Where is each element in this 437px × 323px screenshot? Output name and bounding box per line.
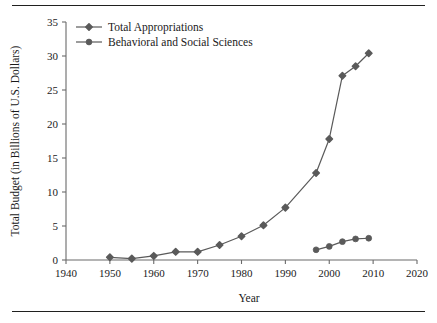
chart-series	[313, 235, 371, 252]
y-axis-tick-label: 30	[47, 50, 59, 62]
chart-series-group	[107, 50, 372, 262]
top-rule	[12, 5, 425, 6]
y-axis-tick-label: 20	[47, 118, 59, 130]
x-axis-title: Year	[238, 292, 259, 304]
line-chart: 05101520253035 1940195019601970198019902…	[0, 0, 437, 323]
data-point-marker	[216, 242, 222, 248]
data-point-marker	[194, 249, 200, 255]
x-axis-tick-label: 1950	[99, 267, 122, 279]
legend-item: Behavioral and Social Sciences	[76, 36, 253, 48]
data-point-marker	[340, 239, 346, 245]
chart-series	[107, 50, 372, 262]
legend-label: Total Appropriations	[108, 21, 204, 34]
x-axis-tick-label: 1940	[55, 267, 78, 279]
y-axis-title: Total Budget (in Billions of U.S. Dollar…	[9, 45, 22, 236]
x-axis-tick-label: 1980	[231, 267, 254, 279]
x-axis-tick-label: 1960	[143, 267, 166, 279]
legend-item: Total Appropriations	[76, 21, 204, 34]
data-point-marker	[353, 236, 359, 242]
data-point-marker	[129, 255, 135, 261]
data-point-marker	[326, 244, 332, 250]
y-axis: 05101520253035	[47, 16, 66, 266]
bottom-rule	[12, 311, 425, 312]
data-point-marker	[238, 233, 244, 239]
data-point-marker	[86, 39, 92, 45]
y-axis-tick-label: 35	[47, 16, 59, 28]
x-axis-tick-label: 2020	[406, 267, 429, 279]
y-axis-tick-label: 15	[47, 152, 59, 164]
x-axis-tick-label: 2010	[362, 267, 385, 279]
legend-label: Behavioral and Social Sciences	[108, 36, 253, 48]
y-axis-tick-label: 25	[47, 84, 59, 96]
x-axis: 194019501960197019801990200020102020	[55, 260, 429, 279]
x-axis-tick-label: 1990	[274, 267, 297, 279]
data-point-marker	[86, 24, 92, 30]
chart-legend: Total AppropriationsBehavioral and Socia…	[76, 21, 253, 48]
data-point-marker	[172, 249, 178, 255]
x-axis-tick-label: 1970	[187, 267, 210, 279]
y-axis-tick-label: 0	[53, 254, 59, 266]
x-axis-tick-label: 2000	[318, 267, 341, 279]
data-point-marker	[366, 235, 372, 241]
y-axis-tick-label: 5	[53, 220, 59, 232]
series-line	[110, 53, 369, 258]
data-point-marker	[326, 136, 332, 142]
y-axis-tick-label: 10	[47, 186, 59, 198]
figure-container: 05101520253035 1940195019601970198019902…	[0, 0, 437, 323]
data-point-marker	[313, 247, 319, 253]
data-point-marker	[151, 253, 157, 259]
